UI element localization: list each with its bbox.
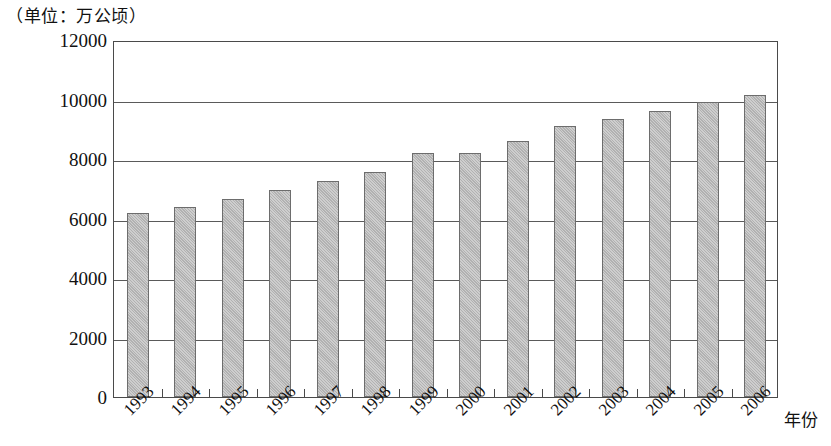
x-tick-mark bbox=[732, 389, 733, 397]
gridline bbox=[114, 280, 777, 281]
x-tick-mark bbox=[637, 389, 638, 397]
y-tick-label: 12000 bbox=[1, 30, 107, 52]
bar bbox=[602, 119, 624, 397]
y-tick-label: 2000 bbox=[1, 328, 107, 350]
x-tick-mark bbox=[209, 389, 210, 397]
y-tick-label: 10000 bbox=[1, 90, 107, 112]
x-tick-mark bbox=[399, 389, 400, 397]
x-tick-mark bbox=[589, 389, 590, 397]
plot-area bbox=[113, 41, 778, 398]
x-tick-mark bbox=[162, 389, 163, 397]
bar bbox=[269, 190, 291, 397]
bar bbox=[174, 207, 196, 397]
bar bbox=[697, 102, 719, 397]
bar bbox=[554, 126, 576, 397]
bar bbox=[364, 172, 386, 397]
y-tick-label: 8000 bbox=[1, 149, 107, 171]
y-tick-label: 4000 bbox=[1, 268, 107, 290]
y-axis: 020004000600080001000012000 bbox=[0, 41, 107, 398]
bar bbox=[222, 199, 244, 397]
gridline bbox=[114, 221, 777, 222]
bar bbox=[744, 95, 766, 397]
x-axis-title: 年份 bbox=[784, 406, 818, 431]
x-tick-mark bbox=[447, 389, 448, 397]
x-tick-mark bbox=[304, 389, 305, 397]
gridline bbox=[114, 102, 777, 103]
x-tick-mark bbox=[684, 389, 685, 397]
x-axis: 1993199419951996199719981999200020012002… bbox=[0, 398, 831, 446]
x-tick-mark bbox=[542, 389, 543, 397]
bar bbox=[317, 181, 339, 397]
bar bbox=[649, 111, 671, 397]
chart-unit-caption: （单位：万公顷） bbox=[6, 2, 146, 27]
x-tick-mark bbox=[494, 389, 495, 397]
gridline bbox=[114, 161, 777, 162]
x-tick-mark bbox=[352, 389, 353, 397]
bar bbox=[459, 153, 481, 397]
bar bbox=[507, 141, 529, 397]
y-tick-label: 6000 bbox=[1, 209, 107, 231]
bar bbox=[127, 213, 149, 397]
gridline bbox=[114, 340, 777, 341]
bar bbox=[412, 153, 434, 397]
x-tick-mark bbox=[257, 389, 258, 397]
